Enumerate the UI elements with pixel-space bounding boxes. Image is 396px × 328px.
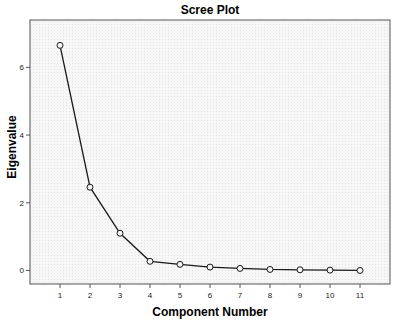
y-tick-label: 4 [20, 131, 25, 140]
x-tick-label: 3 [118, 291, 123, 300]
x-axis: 1234567891011 [58, 284, 365, 300]
x-tick-label: 4 [148, 291, 153, 300]
y-tick-label: 6 [20, 63, 25, 72]
y-tick-label: 2 [20, 199, 25, 208]
data-point [117, 230, 123, 236]
x-tick-label: 5 [178, 291, 183, 300]
x-tick-label: 9 [298, 291, 303, 300]
plot-area [30, 20, 390, 284]
scree-plot: 0246 1234567891011 [0, 0, 396, 328]
data-point [357, 267, 363, 273]
x-tick-label: 11 [356, 291, 365, 300]
data-point [147, 258, 153, 264]
data-point [87, 184, 93, 190]
x-tick-label: 6 [208, 291, 213, 300]
x-tick-label: 2 [88, 291, 93, 300]
data-point [297, 267, 303, 273]
data-point [57, 42, 63, 48]
y-tick-label: 0 [20, 266, 25, 275]
x-tick-label: 10 [326, 291, 335, 300]
data-point [267, 266, 273, 272]
data-point [177, 261, 183, 267]
y-axis: 0246 [20, 63, 30, 275]
x-tick-label: 7 [238, 291, 243, 300]
data-point [237, 265, 243, 271]
x-tick-label: 8 [268, 291, 273, 300]
x-tick-label: 1 [58, 291, 63, 300]
data-point [327, 267, 333, 273]
data-point [207, 264, 213, 270]
